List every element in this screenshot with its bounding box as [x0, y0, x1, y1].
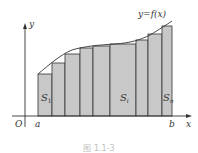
x-axis-label: x: [186, 119, 191, 129]
b-label: b: [169, 119, 175, 129]
y-axis-label: y: [28, 19, 35, 29]
riemann-rectangle: [80, 48, 93, 116]
figure-caption: 图 1.1-3: [0, 142, 198, 153]
riemann-rectangle: [65, 54, 80, 116]
x-axis-arrow-icon: [186, 114, 192, 118]
riemann-rectangle: [52, 63, 65, 116]
a-label: a: [35, 119, 40, 129]
riemann-rectangle: [136, 40, 148, 116]
riemann-rectangle: [148, 34, 162, 116]
riemann-sum-diagram: y=f(x) y x O a b S1 Si Sn: [0, 0, 198, 153]
riemann-rectangle: [110, 44, 136, 116]
origin-label: O: [15, 119, 23, 129]
y-axis-arrow-icon: [23, 23, 27, 29]
rectangles-group: [38, 26, 172, 116]
riemann-rectangle: [93, 46, 110, 116]
curve-label: y=f(x): [137, 9, 167, 19]
